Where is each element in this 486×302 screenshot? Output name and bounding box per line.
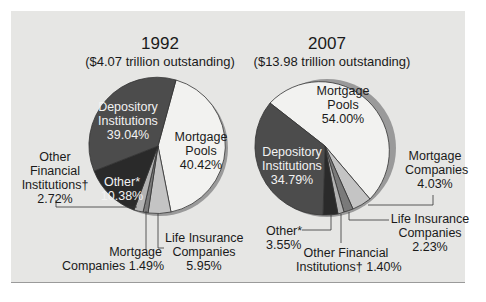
label-ofi-2007: Other Financial Institutions† 1.40% — [296, 246, 396, 274]
label-mortgage-co-2007: Mortgage Companies 4.03% — [405, 149, 465, 191]
label-life-1992: Life Insurance Companies 5.95% — [165, 231, 243, 273]
label-ofi-1992: Other Financial Institutions† 2.72% — [20, 150, 90, 206]
label-mortgage-co-1992: Mortgage Companies 1.49% — [62, 245, 162, 273]
label-pools-1992: Mortgage Pools 40.42% — [168, 130, 234, 172]
subtitle-2007: ($13.98 trillion outstanding) — [247, 55, 417, 70]
title-1992: 1992 — [105, 34, 215, 53]
title-2007: 2007 — [272, 34, 382, 53]
label-life-2007: Life Insurance Companies 2.23% — [389, 212, 471, 254]
label-pools-2007: Mortgage Pools 54.00% — [310, 84, 376, 126]
subtitle-1992: ($4.07 trillion outstanding) — [75, 55, 245, 70]
label-depository-1992: Depository Institutions 39.04% — [90, 100, 166, 142]
label-other-1992: Other* 10.38% — [99, 175, 145, 203]
label-depository-2007: Depository Institutions 34.79% — [254, 145, 330, 187]
